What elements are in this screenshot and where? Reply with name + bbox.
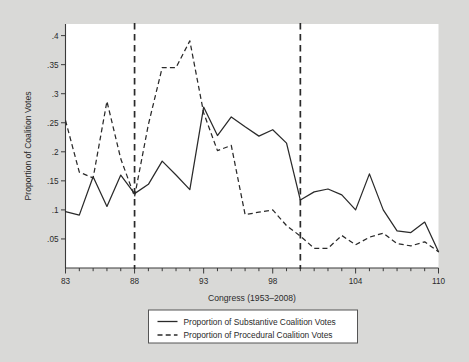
y-tick-label: .15 — [47, 177, 59, 186]
x-tick-label: 98 — [268, 277, 278, 286]
x-tick-label: 93 — [199, 277, 209, 286]
line-chart: .05.1.15.2.25.3.35.483889398104110Propor… — [0, 0, 469, 362]
y-tick-label: .1 — [52, 206, 59, 215]
y-tick-label: .25 — [47, 119, 59, 128]
chart-figure: .05.1.15.2.25.3.35.483889398104110Propor… — [0, 0, 469, 362]
y-tick-label: .05 — [47, 235, 59, 244]
chart-legend: Proportion of Substantive Coalition Vote… — [149, 310, 358, 343]
plot-background — [66, 24, 439, 268]
y-tick-label: .3 — [52, 90, 59, 99]
y-axis-title: Proportion of Coalition Votes — [23, 92, 33, 201]
x-tick-label: 110 — [432, 277, 445, 286]
x-tick-label: 83 — [61, 277, 71, 286]
y-tick-label: .2 — [52, 148, 59, 157]
x-axis-title: Congress (1953–2008) — [208, 293, 296, 303]
y-tick-label: .4 — [52, 32, 59, 41]
legend-label-substantive: Proportion of Substantive Coalition Vote… — [184, 317, 336, 327]
legend-label-procedural: Proportion of Procedural Coalition Votes — [184, 330, 333, 340]
plot-area — [66, 24, 439, 268]
x-tick-label: 104 — [349, 277, 363, 286]
y-tick-label: .35 — [47, 61, 59, 70]
x-tick-label: 88 — [130, 277, 140, 286]
